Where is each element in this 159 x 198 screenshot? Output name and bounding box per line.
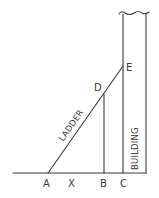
- ladder-line-AE: [48, 66, 123, 173]
- label-B: B: [100, 178, 107, 189]
- label-E: E: [126, 62, 132, 73]
- label-A: A: [43, 178, 50, 189]
- diagram-svg: A X B C D E LADDER BUILDING: [0, 0, 159, 198]
- label-C: C: [120, 178, 127, 189]
- building-label: BUILDING: [130, 127, 140, 170]
- label-D: D: [94, 82, 102, 93]
- label-X: X: [68, 178, 75, 189]
- ladder-building-diagram: A X B C D E LADDER BUILDING: [0, 0, 159, 198]
